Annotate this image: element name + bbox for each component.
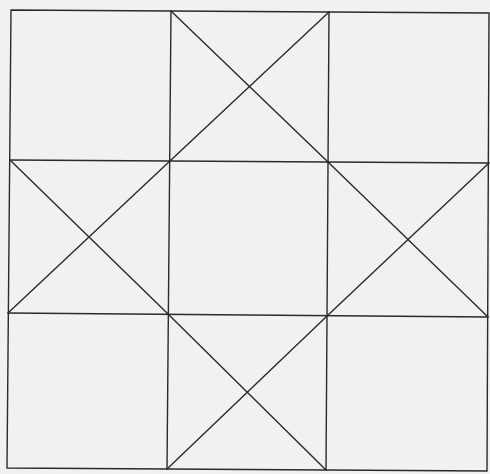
diagonal-lines (8, 11, 489, 470)
quilt-block-diagram (0, 0, 490, 474)
vertical-left-line (167, 11, 171, 469)
horizontal-bottom-line (8, 313, 488, 317)
vertical-right-line (326, 12, 329, 470)
outer-square (7, 10, 489, 471)
left-diagonal-b-line (8, 160, 171, 313)
grid-lines (8, 11, 489, 470)
horizontal-top-line (10, 160, 489, 163)
